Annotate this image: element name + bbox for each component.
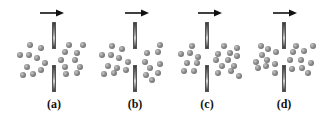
gas-particle: [105, 63, 111, 69]
gas-particle: [27, 42, 33, 48]
arrow-right-icon: [273, 8, 297, 18]
gas-particle: [119, 46, 125, 52]
gas-particle: [301, 48, 307, 54]
gas-particle: [101, 71, 107, 77]
gas-particle: [42, 60, 48, 66]
gas-particle: [225, 57, 231, 63]
gas-particle: [30, 71, 36, 77]
gas-particle: [63, 71, 69, 77]
partition-wall-bottom: [205, 65, 209, 92]
gas-particle: [80, 42, 86, 48]
gas-particle: [234, 45, 240, 51]
gas-particle: [26, 52, 32, 58]
gas-particle: [287, 57, 293, 63]
gas-particle: [293, 43, 299, 49]
gas-particle: [58, 57, 64, 63]
gas-particle: [189, 43, 195, 49]
gas-particle: [310, 43, 316, 49]
gas-particle: [184, 60, 190, 66]
gas-particle: [236, 73, 242, 79]
gas-particle: [272, 70, 278, 76]
gas-particle: [258, 43, 264, 49]
partition-wall-top: [52, 22, 56, 49]
gas-particle: [155, 49, 161, 55]
gas-particle: [221, 43, 227, 49]
gas-particle: [142, 59, 148, 65]
gas-particle: [38, 45, 44, 51]
gas-particle: [273, 49, 279, 55]
gas-particle: [143, 72, 149, 78]
gas-particle: [305, 70, 311, 76]
gas-particle: [187, 50, 193, 56]
partition-wall-top: [133, 22, 137, 49]
gas-particle: [308, 60, 314, 66]
gas-particle: [298, 57, 304, 63]
gas-particle: [74, 50, 80, 56]
gas-particle: [155, 70, 161, 76]
partition-wall-bottom: [133, 65, 137, 92]
gas-particle: [116, 55, 122, 61]
gas-particle: [144, 50, 150, 56]
gas-particle: [263, 63, 269, 69]
gas-particle: [227, 50, 233, 56]
gas-particle: [181, 68, 187, 74]
gas-particle: [111, 70, 117, 76]
gas-particle: [191, 68, 197, 74]
partition-wall-top: [282, 22, 286, 49]
gas-particle: [265, 46, 271, 52]
gas-particle: [178, 51, 184, 57]
panel-label: (b): [128, 97, 143, 112]
gas-particle: [213, 57, 219, 63]
panel-label: (c): [200, 97, 213, 112]
gas-particle: [157, 61, 163, 67]
gas-particle: [34, 55, 40, 61]
gas-particle: [38, 67, 44, 73]
gas-particle: [123, 67, 129, 73]
gas-particle: [24, 64, 30, 70]
gas-particle: [255, 65, 261, 71]
gas-particle: [72, 57, 78, 63]
gas-particle: [194, 60, 200, 66]
arrow-right-icon: [125, 8, 149, 18]
gas-particle: [289, 66, 295, 72]
gas-particle: [17, 52, 23, 58]
gas-particle: [157, 42, 163, 48]
gas-particle: [290, 49, 296, 55]
gas-particle: [77, 64, 83, 70]
gas-particle: [109, 43, 115, 49]
partition-wall-bottom: [282, 65, 286, 92]
partition-wall-bottom: [52, 65, 56, 92]
gas-particle: [108, 52, 114, 58]
gas-particle: [20, 72, 26, 78]
gas-particle: [62, 64, 68, 70]
gas-particle: [62, 49, 68, 55]
gas-particle: [272, 61, 278, 67]
gas-particle: [215, 70, 221, 76]
partition-wall-top: [205, 22, 209, 49]
arrow-right-icon: [40, 8, 64, 18]
gas-particle: [99, 52, 105, 58]
panel-label: (d): [277, 97, 292, 112]
gas-particle: [66, 42, 72, 48]
gas-particle: [125, 59, 131, 65]
gas-particle: [219, 63, 225, 69]
gas-particle: [149, 77, 155, 83]
gas-particle: [74, 70, 80, 76]
gas-particle: [147, 65, 153, 71]
panel-label: (a): [47, 97, 61, 112]
gas-particle: [234, 53, 240, 59]
arrow-right-icon: [198, 8, 222, 18]
gas-particle: [299, 65, 305, 71]
gas-particle: [228, 68, 234, 74]
